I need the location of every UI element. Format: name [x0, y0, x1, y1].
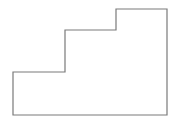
diagram-canvas: [0, 0, 180, 122]
stair-step-outline: [13, 9, 167, 115]
